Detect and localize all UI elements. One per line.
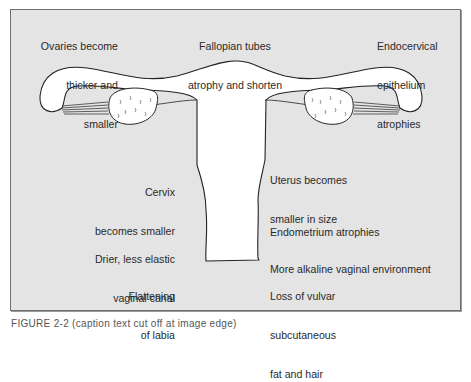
label-ovaries-line: Ovaries become bbox=[41, 40, 118, 53]
label-fallopian-line: Fallopian tubes bbox=[170, 40, 300, 53]
label-vulvar-line: subcutaneous bbox=[270, 329, 336, 342]
label-labia: Flattening of labia bbox=[128, 264, 175, 355]
label-labia-line: of labia bbox=[128, 329, 175, 342]
label-ovaries-line: smaller bbox=[41, 118, 118, 131]
label-endocervical-line: epithelium bbox=[377, 79, 438, 92]
ovary-right-icon bbox=[304, 88, 353, 124]
label-endocervical-line: atrophies bbox=[377, 118, 438, 131]
label-vulvar-line: fat and hair bbox=[270, 368, 336, 381]
figure-caption: FIGURE 2-2 (caption text cut off at imag… bbox=[11, 318, 237, 329]
label-cervix-line: Cervix bbox=[95, 186, 175, 199]
label-vulvar-line: Loss of vulvar bbox=[270, 290, 336, 303]
label-fallopian-tubes: Fallopian tubes atrophy and shorten bbox=[170, 14, 300, 105]
label-vulvar: Loss of vulvar subcutaneous fat and hair bbox=[270, 264, 336, 382]
label-ovaries: Ovaries become thicker and smaller bbox=[41, 14, 118, 144]
label-fallopian-line: atrophy and shorten bbox=[170, 79, 300, 92]
label-endocervical-line: Endocervical bbox=[377, 40, 438, 53]
label-uterus-line: Uterus becomes bbox=[270, 174, 347, 187]
label-labia-line: Flattening bbox=[128, 290, 175, 303]
label-ovaries-line: thicker and bbox=[41, 79, 118, 92]
label-endocervical: Endocervical epithelium atrophies bbox=[377, 14, 438, 144]
